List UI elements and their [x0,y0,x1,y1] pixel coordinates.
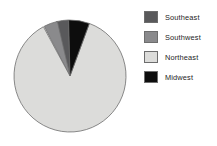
legend-item-label: Northeast [165,53,198,62]
pie-slice-group [14,20,126,132]
legend-item-label: Midwest [165,73,193,82]
legend-item-southwest[interactable]: Southwest [144,27,216,47]
legend-item-label: Southeast [165,13,200,22]
legend-swatch-icon [144,71,158,83]
chart-legend: SoutheastSouthwestNortheastMidwest [144,7,216,87]
legend-item-label: Southwest [165,33,201,42]
legend-item-southeast[interactable]: Southeast [144,7,216,27]
pie-chart-figure: SoutheastSouthwestNortheastMidwest [0,0,217,146]
legend-swatch-icon [144,51,158,63]
pie-plot-area [11,18,129,136]
legend-item-midwest[interactable]: Midwest [144,67,216,87]
legend-item-northeast[interactable]: Northeast [144,47,216,67]
legend-swatch-icon [144,11,158,23]
pie-svg [11,18,129,136]
legend-swatch-icon [144,31,158,43]
